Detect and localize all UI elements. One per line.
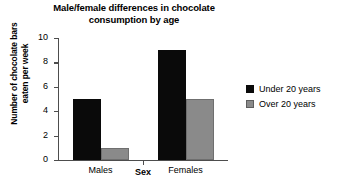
x-axis-line: [54, 160, 228, 161]
x-axis-label: Sex: [58, 167, 228, 177]
y-axis-tick-label: 8: [43, 56, 48, 67]
legend-item: Over 20 years: [246, 99, 321, 109]
y-axis-tick: 0: [54, 160, 59, 161]
y-axis-tick-label: 0: [43, 154, 48, 165]
chart-legend: Under 20 yearsOver 20 years: [246, 84, 321, 114]
chart-figure: Male/female differences in chocolate con…: [0, 0, 342, 191]
y-axis-tick: 6: [54, 87, 59, 88]
y-axis-tick-label: 6: [43, 81, 48, 92]
y-axis-line: [58, 38, 59, 160]
y-axis-tick-label: 4: [43, 105, 48, 116]
bar: [158, 50, 186, 160]
legend-swatch-icon: [246, 100, 254, 108]
bar: [101, 148, 129, 160]
chart-title-line-2: consumption by age: [89, 14, 180, 25]
chart-title: Male/female differences in chocolate con…: [28, 2, 240, 25]
y-axis-tick: 4: [54, 111, 59, 112]
y-axis-label-line-2: eaten per week: [19, 44, 29, 104]
y-axis-tick: 8: [54, 62, 59, 63]
bar: [73, 99, 101, 160]
x-axis-tick: [143, 160, 144, 165]
bar: [186, 99, 214, 160]
y-axis-label-line-1: Number of chocolate bars: [9, 22, 19, 124]
plot-area: 1086420 MalesFemales: [58, 38, 228, 160]
y-axis-tick-label: 10: [38, 32, 48, 43]
legend-label: Over 20 years: [259, 99, 316, 109]
legend-item: Under 20 years: [246, 84, 321, 94]
y-axis-tick-label: 2: [43, 130, 48, 141]
chart-title-line-1: Male/female differences in chocolate: [53, 2, 215, 13]
legend-label: Under 20 years: [259, 84, 321, 94]
y-axis-tick: 2: [54, 136, 59, 137]
y-axis-label: Number of chocolate bars eaten per week: [9, 14, 30, 134]
legend-swatch-icon: [246, 85, 254, 93]
y-axis-tick: 10: [54, 38, 59, 39]
